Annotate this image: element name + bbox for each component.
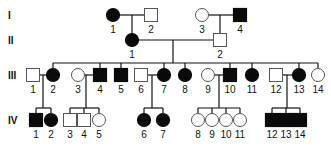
pedigree-chart: IIIIIIIV 1234121234567891011121314123456… [0, 0, 331, 151]
individual-I-1: 1 [107, 9, 120, 35]
affected-female-circle-icon [107, 9, 120, 22]
individual-number: 5 [118, 84, 124, 95]
individual-number: 1 [129, 49, 135, 60]
individual-number: 2 [50, 84, 56, 95]
individual-number: 10 [220, 129, 232, 140]
individual-number: 14 [312, 84, 324, 95]
unaffected-male-square-icon [270, 69, 283, 82]
individual-number: 1 [33, 129, 39, 140]
individual-number: 2 [217, 49, 223, 60]
affected-female-circle-icon [179, 69, 192, 82]
individual-number: 6 [138, 84, 144, 95]
individual-number: 12 [266, 129, 278, 140]
individual-number: 11 [247, 84, 258, 95]
individual-I-2: 2 [145, 9, 158, 35]
relationship-lines [36, 15, 318, 114]
affected-female-circle-icon [293, 69, 306, 82]
individual-number: 8 [195, 129, 201, 140]
individual-III-3: 3 [72, 69, 85, 95]
individual-number: 5 [96, 129, 102, 140]
individual-IV-12: 12 [266, 114, 279, 140]
unaffected-male-square-icon [27, 69, 40, 82]
affected-male-square-icon [234, 9, 247, 22]
unaffected-female-circle-icon [202, 69, 215, 82]
individual-IV-6: 6 [138, 114, 151, 140]
individual-III-12: 12 [270, 69, 283, 95]
generation-labels: IIIIIIIV [8, 10, 18, 126]
individual-III-10: 10 [224, 69, 237, 95]
individual-number: 7 [161, 84, 167, 95]
affected-male-square-icon [224, 69, 237, 82]
unaffected-male-square-icon [214, 34, 227, 47]
affected-male-square-icon [294, 114, 307, 127]
individual-IV-11: 11 [234, 114, 247, 140]
individual-II-1: 1 [126, 34, 139, 60]
individual-number: 8 [182, 84, 188, 95]
unaffected-male-square-icon [145, 9, 158, 22]
individual-number: 1 [110, 24, 116, 35]
affected-female-circle-icon [47, 69, 60, 82]
individual-number: 9 [205, 84, 211, 95]
individual-III-14: 14 [312, 69, 325, 95]
individual-number: 2 [48, 129, 54, 140]
individual-number: 4 [81, 129, 87, 140]
individual-III-8: 8 [179, 69, 192, 95]
affected-male-square-icon [280, 114, 293, 127]
unaffected-male-square-icon [135, 69, 148, 82]
individual-number: 1 [30, 84, 36, 95]
individual-number: 3 [75, 84, 81, 95]
affected-male-square-icon [94, 69, 107, 82]
individual-number: 12 [270, 84, 282, 95]
affected-male-square-icon [115, 69, 128, 82]
individual-number: 11 [235, 129, 246, 140]
individual-number: 13 [280, 129, 292, 140]
individual-III-2: 2 [47, 69, 60, 95]
unaffected-male-square-icon [64, 114, 77, 127]
individual-IV-7: 7 [157, 114, 170, 140]
individual-number: 13 [293, 84, 305, 95]
unaffected-female-circle-icon [312, 69, 325, 82]
unaffected-female-circle-icon [93, 114, 106, 127]
unaffected-female-circle-icon [196, 9, 209, 22]
generation-label: IV [8, 115, 18, 126]
unaffected-female-circle-icon [192, 114, 205, 127]
individual-number: 2 [148, 24, 154, 35]
individual-number: 4 [97, 84, 103, 95]
individual-IV-4: 4 [78, 114, 91, 140]
affected-female-circle-icon [126, 34, 139, 47]
individual-number: 3 [199, 24, 205, 35]
individual-number: 14 [294, 129, 306, 140]
individual-number: 7 [160, 129, 166, 140]
affected-female-circle-icon [157, 114, 170, 127]
individual-number: 3 [67, 129, 73, 140]
individual-III-9: 9 [202, 69, 215, 95]
affected-male-square-icon [266, 114, 279, 127]
individual-number: 4 [237, 24, 243, 35]
generation-label: II [8, 35, 14, 46]
unaffected-male-square-icon [78, 114, 91, 127]
individual-IV-8: 8 [192, 114, 205, 140]
affected-female-circle-icon [138, 114, 151, 127]
individual-III-5: 5 [115, 69, 128, 95]
individual-III-4: 4 [94, 69, 107, 95]
affected-female-circle-icon [45, 114, 58, 127]
generation-label: I [8, 10, 11, 21]
affected-male-square-icon [30, 114, 43, 127]
generation-label: III [8, 70, 17, 81]
unaffected-female-circle-icon [206, 114, 219, 127]
individual-IV-14: 14 [294, 114, 307, 140]
individual-III-11: 11 [246, 69, 259, 95]
individual-III-13: 13 [293, 69, 306, 95]
individual-IV-3: 3 [64, 114, 77, 140]
individual-III-7: 7 [158, 69, 171, 95]
individual-number: 9 [209, 129, 215, 140]
affected-female-circle-icon [158, 69, 171, 82]
individual-IV-2: 2 [45, 114, 58, 140]
individual-number: 6 [141, 129, 147, 140]
individual-III-1: 1 [27, 69, 40, 95]
individual-IV-9: 9 [206, 114, 219, 140]
individual-I-4: 4 [234, 9, 247, 35]
individual-IV-5: 5 [93, 114, 106, 140]
affected-female-circle-icon [246, 69, 259, 82]
individual-IV-1: 1 [30, 114, 43, 140]
